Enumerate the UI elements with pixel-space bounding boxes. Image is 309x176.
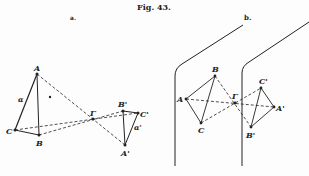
panel-a-points: [14, 73, 140, 147]
panel-b: [175, 22, 309, 166]
figure-canvas: Fig. 43. a. b. A C B Γ B' C' A' α α': [0, 0, 309, 176]
point-b-B-prime: B': [245, 130, 255, 140]
edge-alpha: α: [18, 95, 24, 104]
point-b-C: C: [198, 125, 205, 135]
figure-43: Fig. 43. a. b. A C B Γ B' C' A' α α': [0, 0, 309, 176]
figure-title: Fig. 43.: [137, 2, 171, 12]
point-b-A: A: [176, 94, 183, 104]
panel-b-label: b.: [244, 13, 251, 22]
point-b-C-prime: C': [259, 76, 268, 86]
panel-a: [15, 74, 138, 145]
point-b-gamma: Γ: [231, 91, 239, 101]
point-B-prime: B': [117, 99, 127, 109]
point-C-prime: C': [140, 109, 149, 119]
point-gamma: Γ: [89, 108, 97, 118]
point-b-A-prime: A': [275, 103, 285, 113]
edge-alpha-prime: α': [134, 123, 142, 132]
point-b-B: B: [211, 64, 219, 74]
point-B: B: [35, 138, 43, 148]
point-A: A: [33, 63, 40, 73]
point-A-prime: A': [120, 148, 130, 158]
point-C: C: [6, 126, 13, 136]
panel-a-label: a.: [70, 14, 76, 21]
